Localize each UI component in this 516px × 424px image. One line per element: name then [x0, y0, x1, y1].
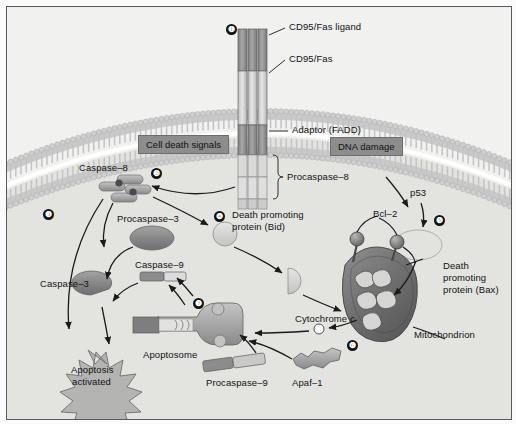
label-cd95-fas: CD95/Fas [289, 53, 333, 64]
lipid-head [320, 156, 325, 161]
lipid-head [81, 134, 86, 139]
lipid-head [200, 155, 205, 160]
lipid-head [304, 110, 309, 115]
lipid-head [164, 159, 169, 164]
lipid-head [29, 195, 34, 200]
lipid-head [476, 148, 481, 153]
lipid-head [128, 166, 133, 171]
lipid-head [481, 150, 486, 155]
lipid-head [398, 125, 403, 130]
label-caspase-9: Caspase–9 [135, 259, 184, 270]
lipid-head [278, 109, 283, 114]
lipid-head [200, 111, 205, 116]
label-caspase-3: Caspase–3 [40, 278, 89, 289]
lipid-head [216, 110, 221, 115]
lipid-head [232, 109, 237, 114]
lipid-head [65, 182, 70, 187]
lipid-head [315, 155, 320, 160]
label-cd95-fas-ligand: CD95/Fas ligand [289, 21, 361, 32]
lipid-head [185, 113, 190, 118]
lipid-head [429, 133, 434, 138]
lipid-head [148, 118, 153, 123]
lipid-head [159, 116, 164, 121]
lipid-head [310, 155, 315, 160]
lipid-head [268, 153, 273, 158]
lipid-head [455, 141, 460, 146]
lipid-head [195, 112, 200, 117]
lipid-head [460, 186, 465, 191]
lipid-head [81, 178, 86, 183]
label-apaf-1: Apaf–1 [292, 377, 323, 388]
lipid-head [24, 197, 29, 202]
lipid-head [138, 120, 143, 125]
lipid-head [226, 109, 231, 114]
lipid-head [34, 149, 39, 154]
lipid-head [367, 162, 372, 167]
lipid-head [60, 140, 65, 145]
lipid-head [388, 166, 393, 171]
lipid-head [325, 156, 330, 161]
lipid-head [325, 112, 330, 117]
dna-damage-box: DNA damage [330, 137, 403, 156]
lipid-head [70, 137, 75, 142]
lipid-head [445, 181, 450, 186]
lipid-head [169, 115, 174, 120]
lipid-head [289, 153, 294, 158]
lipid-head [486, 151, 491, 156]
lipid-head [143, 119, 148, 124]
badge-step-7: ❼ [193, 298, 204, 309]
lipid-head [507, 160, 511, 165]
badge-step-2: ❷ [151, 168, 162, 179]
lipid-head [289, 109, 294, 114]
lipid-head [211, 154, 216, 159]
label-adaptor-fadd: Adaptor (FADD) [292, 124, 361, 135]
label-apoptosome: Apoptosome [143, 349, 197, 360]
lipid-head [377, 120, 382, 125]
lipid-head [190, 112, 195, 117]
lipid-head [367, 118, 372, 123]
label-procaspase-3: Procaspase–3 [117, 213, 179, 224]
lipid-head [44, 145, 49, 150]
lipid-head [450, 183, 455, 188]
lipid-head [356, 161, 361, 166]
lipid-head [221, 153, 226, 158]
lipid-head [372, 163, 377, 168]
lipid-head [403, 170, 408, 175]
lipid-head [44, 189, 49, 194]
lipid-head [107, 127, 112, 132]
badge-step-3: ❸ [43, 209, 54, 220]
lipid-head [138, 164, 143, 169]
lipid-head [330, 113, 335, 118]
lipid-head [330, 157, 335, 162]
lipid-head [434, 134, 439, 139]
lipid-head [34, 193, 39, 198]
lipid-head [50, 144, 55, 149]
badge-step-6: ❻ [347, 340, 358, 351]
lipid-head [232, 153, 237, 158]
lipid-head [455, 185, 460, 190]
cytochrome-c-shape [314, 324, 324, 334]
lipid-head [278, 153, 283, 158]
lipid-head [429, 177, 434, 182]
lipid-head [117, 124, 122, 129]
lipid-head [440, 136, 445, 141]
lipid-head [362, 161, 367, 166]
lipid-head [486, 195, 491, 200]
label-bax-line1: Death [443, 260, 469, 271]
lipid-head [382, 121, 387, 126]
lipid-head [346, 115, 351, 120]
badge-step-4: ❹ [214, 211, 225, 222]
lipid-head [445, 137, 450, 142]
lipid-head [133, 165, 138, 170]
lipid-head [174, 158, 179, 163]
lipid-head [403, 126, 408, 131]
lipid-head [398, 169, 403, 174]
lipid-head [211, 110, 216, 115]
label-cytochrome-c: Cytochrome c [295, 313, 355, 324]
lipid-head [55, 186, 60, 191]
lipid-head [91, 175, 96, 180]
lipid-head [310, 111, 315, 116]
lipid-head [154, 161, 159, 166]
lipid-head [65, 138, 70, 143]
label-bcl-2: Bcl–2 [373, 208, 397, 219]
